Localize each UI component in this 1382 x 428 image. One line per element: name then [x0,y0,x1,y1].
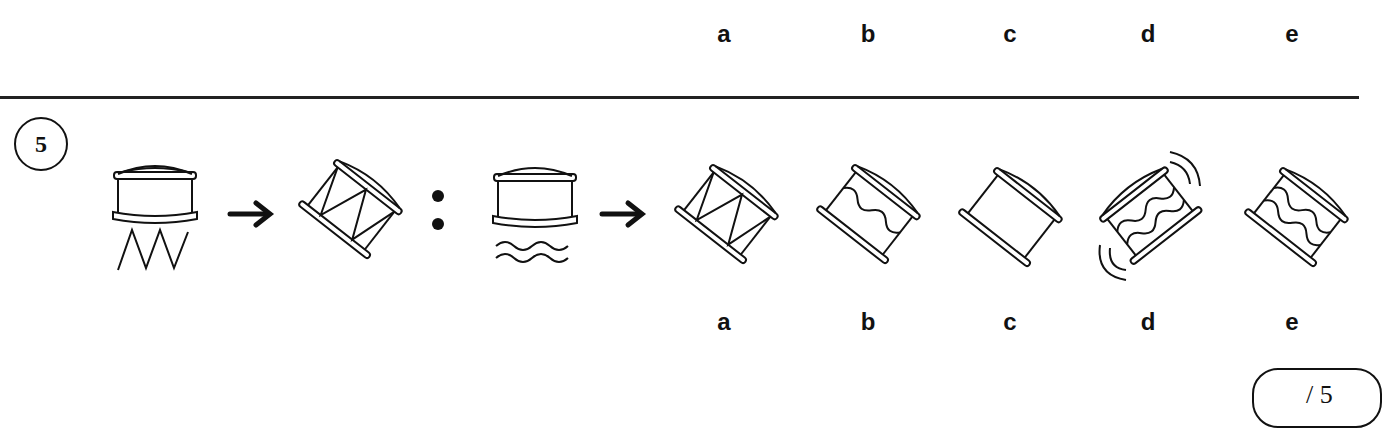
score-text: / 5 [1306,380,1333,410]
top-option-label-b: b [848,20,888,48]
option-label-b: b [848,308,888,336]
option-label-a: a [704,308,744,336]
arrow-right-icon [228,200,276,232]
score-box: / 5 [1252,368,1382,428]
analogy-colon [431,186,445,240]
option-e-drum-icon[interactable] [1246,168,1346,268]
arrow-right-icon-2 [600,200,648,232]
option-b-drum-icon[interactable] [818,165,918,265]
top-option-label-d: d [1128,20,1168,48]
drum-tilted-zigzag-icon [300,160,400,260]
top-option-label-a: a [704,20,744,48]
drum-upright-waves-icon [490,162,580,262]
drum-upright-zigzag-icon [110,160,200,275]
option-label-e: e [1272,308,1312,336]
option-d-drum-icon[interactable] [1090,150,1210,285]
question-number-badge: 5 [14,117,68,171]
section-divider [0,96,1359,99]
option-label-d: d [1128,308,1168,336]
option-a-drum-icon[interactable] [676,165,776,265]
question-number: 5 [35,131,47,158]
option-label-c: c [990,308,1030,336]
option-c-drum-icon[interactable] [960,168,1060,268]
top-option-label-c: c [990,20,1030,48]
top-option-label-e: e [1272,20,1312,48]
